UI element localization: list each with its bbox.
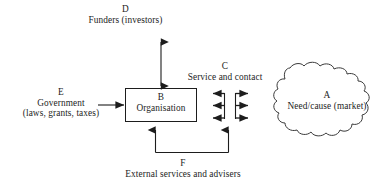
diagram-canvas: D Funders (investors) E Government (laws… <box>0 0 391 195</box>
node-funders-key: D <box>0 4 251 15</box>
connector-external-services <box>156 130 229 153</box>
node-need-cause-text: Need/cause (market) <box>269 101 385 112</box>
node-external-services-text: External services and advisers <box>86 169 280 180</box>
node-service-contact-text: Service and contact <box>168 72 282 83</box>
node-service-contact-label: C Service and contact <box>168 61 282 82</box>
node-government-text-line1: Government <box>0 98 122 109</box>
node-funders-label: D Funders (investors) <box>0 4 251 25</box>
node-government-key: E <box>0 87 122 98</box>
node-government-label: E Government (laws, grants, taxes) <box>0 87 122 119</box>
node-organisation-label: B Organisation <box>125 92 197 113</box>
node-need-cause-key: A <box>269 90 385 101</box>
node-external-services-label: F External services and advisers <box>86 158 280 179</box>
node-need-cause-label: A Need/cause (market) <box>269 90 385 111</box>
connector-service-contact <box>213 93 248 119</box>
node-funders-text: Funders (investors) <box>0 15 251 26</box>
node-service-contact-key: C <box>168 61 282 72</box>
node-external-services-key: F <box>86 158 280 169</box>
node-government-text-line2: (laws, grants, taxes) <box>0 108 122 119</box>
node-organisation-key: B <box>125 92 197 103</box>
node-organisation-text: Organisation <box>125 103 197 114</box>
